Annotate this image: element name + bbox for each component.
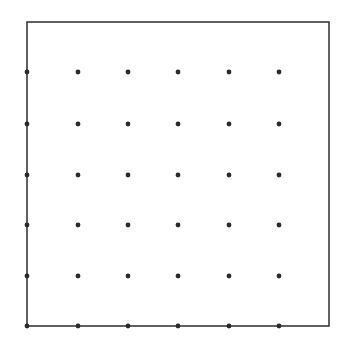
grid-dot: [176, 122, 181, 127]
grid-dot: [126, 173, 131, 178]
grid-dot: [25, 324, 30, 329]
grid-dot: [277, 223, 282, 228]
grid-dot: [126, 70, 131, 75]
dot-lattice: [25, 70, 282, 329]
grid-dot: [25, 173, 30, 178]
grid-dot: [25, 122, 30, 127]
grid-dot: [227, 223, 232, 228]
grid-dot: [76, 223, 81, 228]
grid-dot: [126, 122, 131, 127]
grid-dot: [277, 122, 282, 127]
dot-grid-diagram: [0, 0, 338, 350]
grid-dot: [277, 274, 282, 279]
grid-dot: [176, 274, 181, 279]
grid-dot: [76, 122, 81, 127]
grid-dot: [227, 274, 232, 279]
grid-dot: [25, 223, 30, 228]
grid-dot: [277, 324, 282, 329]
grid-dot: [126, 223, 131, 228]
grid-dot: [277, 70, 282, 75]
grid-dot: [76, 274, 81, 279]
grid-dot: [25, 70, 30, 75]
grid-dot: [176, 70, 181, 75]
grid-dot: [25, 274, 30, 279]
grid-dot: [176, 173, 181, 178]
grid-dot: [176, 223, 181, 228]
grid-dot: [126, 324, 131, 329]
grid-dot: [227, 70, 232, 75]
grid-dot: [126, 274, 131, 279]
grid-dot: [176, 324, 181, 329]
grid-dot: [76, 173, 81, 178]
grid-dot: [76, 324, 81, 329]
grid-dot: [227, 122, 232, 127]
grid-dot: [227, 173, 232, 178]
grid-dot: [227, 324, 232, 329]
grid-dot: [277, 173, 282, 178]
grid-dot: [76, 70, 81, 75]
